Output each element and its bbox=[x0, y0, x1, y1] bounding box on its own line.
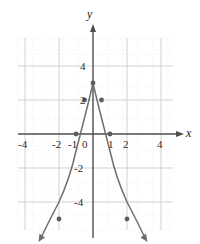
y-axis-label: y bbox=[87, 8, 92, 20]
x-tick-label-1: 1 bbox=[108, 139, 114, 150]
y-axis bbox=[90, 24, 96, 238]
data-point bbox=[99, 98, 104, 103]
y-tick-label-2: 2 bbox=[80, 95, 86, 106]
x-tick-label-minus4: -4 bbox=[18, 139, 27, 150]
coordinate-plane bbox=[0, 0, 200, 244]
y-tick-label-4: 4 bbox=[80, 61, 86, 72]
data-point bbox=[91, 81, 96, 86]
x-tick-label-2: 2 bbox=[123, 139, 129, 150]
data-point bbox=[57, 217, 62, 222]
x-tick-label-minus1: -1 bbox=[68, 139, 77, 150]
x-tick-label-0: 0 bbox=[82, 139, 88, 150]
data-point bbox=[108, 132, 113, 137]
y-tick-label-minus2: -2 bbox=[74, 163, 83, 174]
graph-figure: -4 -2 -1 0 1 2 4 4 2 -2 -4 x y bbox=[0, 0, 200, 244]
x-axis bbox=[18, 131, 184, 137]
x-tick-label-minus2: -2 bbox=[52, 139, 61, 150]
y-tick-label-minus4: -4 bbox=[74, 197, 83, 208]
data-point bbox=[74, 132, 79, 137]
x-tick-label-4: 4 bbox=[157, 139, 163, 150]
x-axis-label: x bbox=[186, 127, 191, 139]
data-point bbox=[125, 217, 130, 222]
